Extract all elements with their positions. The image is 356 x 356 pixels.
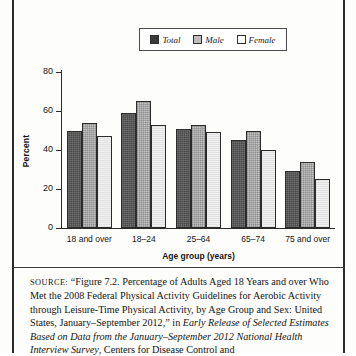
- bar-group: [171, 60, 226, 228]
- source-line-1: “Figure 7.2. Percentage of Adults Aged 1…: [68, 276, 307, 287]
- bar-male: [191, 125, 206, 228]
- source-line-4-title: Early Release of: [183, 317, 250, 328]
- bar-total: [231, 140, 246, 228]
- legend-label-male: Male: [205, 35, 224, 45]
- plot-area: Percent 020406080 18 and over18–2425–646…: [14, 60, 343, 260]
- bar-group: [280, 60, 335, 228]
- bar-male: [136, 101, 151, 228]
- y-tick-label-60: 60: [29, 105, 53, 115]
- bar-female: [97, 136, 112, 228]
- bar-female: [315, 179, 330, 228]
- chart-legend: Total Male Female: [139, 28, 287, 51]
- y-tick-0: [56, 228, 61, 229]
- source-note: SOURCE: “Figure 7.2. Percentage of Adult…: [30, 275, 332, 356]
- y-tick-40: [56, 150, 61, 151]
- bar-male: [82, 123, 97, 228]
- page-border-right: [343, 0, 345, 353]
- bar-female: [206, 132, 221, 228]
- y-tick-label-20: 20: [29, 183, 53, 193]
- y-tick-label-40: 40: [29, 144, 53, 154]
- bar-male: [246, 131, 261, 229]
- y-tick-label-80: 80: [29, 66, 53, 76]
- bar-female: [151, 125, 166, 228]
- x-axis-title: Age group (years): [62, 251, 335, 261]
- y-tick-80: [56, 72, 61, 73]
- bar-total: [67, 131, 82, 229]
- legend-item-male: Male: [193, 35, 224, 45]
- bar-male: [300, 162, 315, 228]
- source-label: SOURCE:: [30, 278, 68, 287]
- gray-hatched-swatch-icon: [193, 35, 202, 44]
- x-tick-label: 25–64: [187, 234, 211, 244]
- legend-item-female: Female: [237, 35, 276, 45]
- y-tick-20: [56, 189, 61, 190]
- bar-total: [176, 129, 191, 228]
- white-outline-swatch-icon: [237, 35, 246, 44]
- bar-total: [121, 113, 136, 228]
- y-tick-60: [56, 111, 61, 112]
- bar-group: [62, 60, 117, 228]
- bar-total: [285, 171, 300, 228]
- legend-item-total: Total: [150, 35, 180, 45]
- bar-groups: [62, 60, 335, 229]
- bar-group: [117, 60, 172, 228]
- figure-source-divider: [12, 267, 345, 268]
- dark-filled-swatch-icon: [150, 35, 159, 44]
- x-tick-label: 75 and over: [285, 234, 330, 244]
- bar-group: [226, 60, 281, 228]
- source-line-6: , Centers for Disease Control and: [99, 344, 235, 355]
- legend-label-female: Female: [249, 35, 276, 45]
- x-tick-label: 18–24: [132, 234, 156, 244]
- bar-female: [261, 150, 276, 228]
- x-tick-label: 18 and over: [67, 234, 112, 244]
- x-tick-label: 65–74: [241, 234, 265, 244]
- y-tick-label-0: 0: [29, 222, 53, 232]
- legend-label-total: Total: [162, 35, 180, 45]
- bar-chart-figure: Total Male Female Percent 020406080 18 a…: [14, 0, 343, 267]
